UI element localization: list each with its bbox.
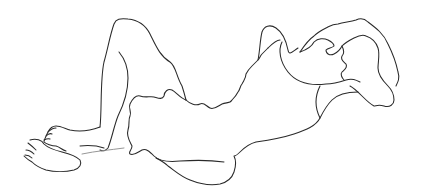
- shoulder-line: [156, 92, 358, 185]
- head-hair: [300, 19, 399, 86]
- hair-inner: [300, 35, 394, 106]
- torso: [186, 48, 268, 109]
- figure-sketch: [0, 0, 430, 194]
- raised-leg: [100, 19, 186, 127]
- face-profile: [341, 46, 346, 80]
- line-drawing-canvas: Continuous-line sketch of a reclining nu…: [0, 0, 430, 194]
- arm: [258, 26, 298, 60]
- foot-upper: [44, 126, 100, 151]
- foot-lower: [24, 139, 81, 171]
- floor-line: [82, 148, 124, 154]
- toe-lower-1: [28, 143, 36, 150]
- back-leg: [100, 52, 128, 151]
- toe-lower-2: [26, 150, 34, 154]
- neck-line: [316, 86, 320, 118]
- head: [280, 42, 360, 85]
- calf-line: [80, 146, 104, 148]
- forearm: [268, 40, 280, 48]
- hip-contour: [127, 89, 224, 162]
